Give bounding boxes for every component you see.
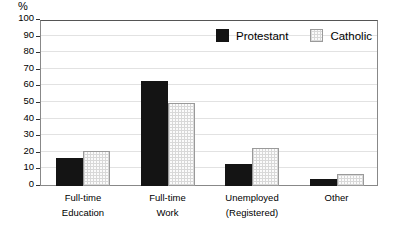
y-axis-tick: 50	[0, 102, 40, 103]
y-axis-tick-label: 60	[23, 79, 34, 89]
x-axis-category-line1: Unemployed	[209, 190, 295, 205]
gridline	[41, 134, 377, 135]
legend-swatch-catholic-icon	[310, 29, 323, 42]
chart-legend: Protestant Catholic	[216, 29, 372, 42]
y-axis-tick-label: 40	[23, 113, 34, 123]
x-axis-category-label: Other	[294, 190, 380, 205]
gridline	[41, 84, 377, 85]
legend-label-protestant: Protestant	[236, 30, 288, 42]
x-axis-category-label: Unemployed(Registered)	[209, 190, 295, 220]
y-axis-tick: 30	[0, 135, 40, 136]
x-axis-category-line2: Work	[125, 205, 211, 220]
gridline	[41, 101, 377, 102]
legend-swatch-protestant-icon	[216, 29, 229, 42]
y-axis-unit-label: %	[18, 1, 28, 12]
y-axis-tick-label: 20	[23, 146, 34, 156]
x-axis-labels: Full-timeEducationFull-timeWorkUnemploye…	[40, 190, 378, 224]
y-axis-tick: 80	[0, 52, 40, 53]
y-axis-tick-label: 100	[18, 13, 34, 23]
y-axis-tick: 20	[0, 152, 40, 153]
gridline	[41, 68, 377, 69]
x-axis-category-line1: Full-time	[125, 190, 211, 205]
legend-item-catholic: Catholic	[310, 29, 372, 42]
legend-label-catholic: Catholic	[330, 30, 372, 42]
x-axis-category-label: Full-timeEducation	[40, 190, 126, 220]
y-axis-tick: 10	[0, 168, 40, 169]
y-axis-tick: 70	[0, 69, 40, 70]
y-axis-tick: 60	[0, 85, 40, 86]
y-axis-tick-label: 80	[23, 46, 34, 56]
y-axis-tick: 90	[0, 36, 40, 37]
y-axis-tick: 100	[0, 19, 40, 20]
bar-chart: % 1009080706050403020100 Protestant Cath…	[0, 0, 396, 225]
gridline	[41, 51, 377, 52]
y-axis-tick-label: 0	[29, 179, 34, 189]
y-axis-tick-label: 50	[23, 96, 34, 106]
gridlines	[41, 21, 377, 185]
plot-area	[40, 20, 378, 186]
y-axis-tick: 40	[0, 119, 40, 120]
legend-item-protestant: Protestant	[216, 29, 288, 42]
y-axis-tick-label: 10	[23, 162, 34, 172]
gridline	[41, 118, 377, 119]
x-axis-category-line2: Education	[40, 205, 126, 220]
y-axis-tick-label: 70	[23, 63, 34, 73]
y-axis-tick-label: 30	[23, 129, 34, 139]
y-axis: 1009080706050403020100	[0, 20, 40, 186]
gridline	[41, 167, 377, 168]
x-axis-category-line1: Other	[294, 190, 380, 205]
x-axis-category-line2: (Registered)	[209, 205, 295, 220]
x-axis-category-label: Full-timeWork	[125, 190, 211, 220]
y-axis-tick: 0	[0, 185, 40, 186]
y-axis-tick-label: 90	[23, 30, 34, 40]
gridline	[41, 151, 377, 152]
x-axis-category-line1: Full-time	[40, 190, 126, 205]
